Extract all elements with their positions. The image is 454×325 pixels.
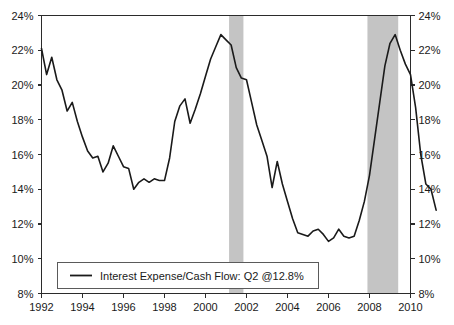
y-axis-left-label: 12% [11, 218, 33, 230]
y-axis-right-label: 18% [419, 114, 441, 126]
y-axis-right-label: 12% [419, 218, 441, 230]
y-axis-left-label: 20% [11, 79, 33, 91]
y-axis-left-label: 24% [11, 10, 33, 22]
recession-2001 [229, 16, 243, 294]
y-axis-left-label: 10% [11, 253, 33, 265]
y-axis-right-label: 8% [419, 288, 435, 300]
y-axis-left-label: 8% [18, 288, 34, 300]
chart-legend: Interest Expense/Cash Flow: Q2 @12.8% [58, 263, 319, 289]
x-axis-label: 2006 [316, 301, 340, 313]
y-axis-right-label: 20% [419, 79, 441, 91]
x-axis-label: 2010 [398, 301, 422, 313]
y-axis-left-label: 14% [11, 183, 33, 195]
y-axis-left-label: 22% [11, 44, 33, 56]
x-axis-label: 1996 [111, 301, 135, 313]
y-axis-left-label: 18% [11, 114, 33, 126]
legend-entry-label: Interest Expense/Cash Flow: Q2 @12.8% [100, 270, 304, 282]
x-axis-label: 2000 [193, 301, 217, 313]
x-axis-label: 1994 [70, 301, 94, 313]
interest-expense-cash-flow-chart: 8%10%12%14%16%18%20%22%24% 8%10%12%14%16… [0, 0, 454, 325]
x-axis-label: 2002 [234, 301, 258, 313]
chart-container: 8%10%12%14%16%18%20%22%24% 8%10%12%14%16… [0, 0, 454, 325]
y-axis-right-label: 22% [419, 44, 441, 56]
x-axis-label: 1992 [29, 301, 53, 313]
y-axis-right-label: 10% [419, 253, 441, 265]
y-axis-right-label: 14% [419, 183, 441, 195]
y-axis-right-label: 24% [419, 10, 441, 22]
x-axis-label: 2008 [357, 301, 381, 313]
x-axis-label: 1998 [152, 301, 176, 313]
x-axis-label: 2004 [275, 301, 299, 313]
y-axis-left-label: 16% [11, 149, 33, 161]
